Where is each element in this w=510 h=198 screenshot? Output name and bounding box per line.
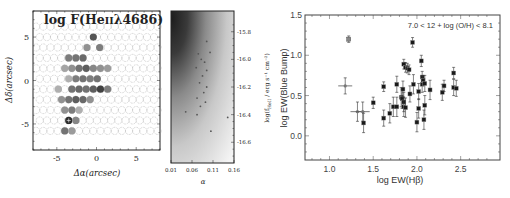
detected-fiber bbox=[65, 75, 72, 82]
x-tick-label: 2.0 bbox=[411, 164, 423, 174]
detected-fiber bbox=[65, 96, 72, 103]
density-x-label: α bbox=[201, 178, 206, 186]
data-point bbox=[411, 75, 415, 94]
detected-fiber bbox=[97, 65, 104, 72]
empty-fiber bbox=[58, 117, 65, 124]
sample-point bbox=[202, 75, 204, 77]
empty-fiber bbox=[72, 33, 79, 40]
x-tick-label: 0.11 bbox=[207, 167, 219, 173]
empty-fiber bbox=[83, 127, 90, 134]
empty-fiber bbox=[118, 127, 125, 134]
empty-fiber bbox=[50, 96, 57, 103]
empty-fiber bbox=[40, 44, 47, 51]
detected-fiber bbox=[90, 65, 97, 72]
empty-fiber bbox=[93, 96, 100, 103]
y-tick-label: -16.6 bbox=[237, 139, 252, 145]
detected-fiber bbox=[87, 96, 94, 103]
detected-fiber bbox=[87, 75, 94, 82]
empty-fiber bbox=[33, 127, 40, 134]
detected-fiber bbox=[75, 106, 82, 113]
empty-fiber bbox=[143, 117, 150, 124]
detected-fiber bbox=[68, 127, 75, 134]
sample-point bbox=[185, 111, 187, 113]
detected-fiber bbox=[94, 75, 101, 82]
sample-point bbox=[206, 86, 208, 88]
empty-fiber bbox=[40, 106, 47, 113]
sample-point bbox=[206, 41, 208, 43]
empty-fiber bbox=[129, 117, 136, 124]
data-point bbox=[371, 97, 375, 108]
empty-fiber bbox=[147, 44, 154, 51]
data-point bbox=[347, 36, 351, 42]
detected-fiber bbox=[61, 127, 68, 134]
detected-fiber bbox=[72, 117, 79, 124]
empty-fiber bbox=[90, 106, 97, 113]
empty-fiber bbox=[33, 44, 40, 51]
sample-point bbox=[200, 105, 202, 107]
empty-fiber bbox=[93, 117, 100, 124]
empty-fiber bbox=[108, 117, 115, 124]
sample-point bbox=[199, 82, 201, 84]
sample-point bbox=[205, 101, 207, 103]
detected-fiber bbox=[90, 33, 97, 40]
data-point bbox=[423, 96, 427, 115]
empty-fiber bbox=[100, 117, 107, 124]
detected-fiber bbox=[79, 54, 86, 61]
empty-fiber bbox=[58, 54, 65, 61]
map-y-tick-labels: 50-5 bbox=[21, 33, 29, 129]
heii-flux-map-panel: log F(HeIIλ4686) -505 50-5 Δα(arcsec) Δδ… bbox=[0, 0, 170, 198]
density-y-label: log(fHeII / erg s⁻¹ cm⁻²) bbox=[263, 53, 272, 123]
detected-fiber bbox=[68, 65, 75, 72]
fiber-grid bbox=[33, 23, 162, 134]
empty-fiber bbox=[143, 96, 150, 103]
empty-fiber bbox=[36, 117, 43, 124]
empty-fiber bbox=[100, 75, 107, 82]
empty-fiber bbox=[118, 106, 125, 113]
empty-fiber bbox=[54, 44, 61, 51]
data-point bbox=[382, 82, 386, 92]
empty-fiber bbox=[129, 75, 136, 82]
sample-point bbox=[227, 117, 229, 119]
sample-point bbox=[200, 58, 202, 60]
detected-fiber bbox=[72, 96, 79, 103]
empty-fiber bbox=[122, 96, 129, 103]
sample-point bbox=[206, 70, 208, 72]
detected-fiber bbox=[83, 86, 90, 93]
y-tick-label: 1.0 bbox=[290, 50, 302, 60]
data-point bbox=[415, 112, 419, 131]
sample-point bbox=[203, 92, 205, 94]
y-tick-label: 0.0 bbox=[290, 131, 302, 141]
empty-fiber bbox=[111, 44, 118, 51]
empty-fiber bbox=[90, 127, 97, 134]
empty-fiber bbox=[108, 54, 115, 61]
empty-fiber bbox=[43, 117, 50, 124]
y-tick-label: -15.8 bbox=[237, 29, 252, 35]
data-point bbox=[395, 76, 399, 92]
scatter-points bbox=[338, 36, 458, 133]
x-tick-label: 1.5 bbox=[367, 164, 379, 174]
empty-fiber bbox=[54, 106, 61, 113]
detected-fiber bbox=[65, 54, 72, 61]
empty-fiber bbox=[150, 117, 157, 124]
empty-fiber bbox=[83, 106, 90, 113]
y-tick-label: -16.0 bbox=[237, 56, 252, 62]
x-tick-label: 0.16 bbox=[228, 167, 241, 173]
empty-fiber bbox=[136, 54, 143, 61]
y-tick-label: -16.2 bbox=[237, 84, 251, 90]
empty-fiber bbox=[33, 106, 40, 113]
empty-fiber bbox=[36, 96, 43, 103]
empty-fiber bbox=[104, 106, 111, 113]
detected-fiber bbox=[83, 44, 90, 51]
data-point bbox=[408, 86, 412, 102]
empty-fiber bbox=[129, 96, 136, 103]
x-tick-label: 0.01 bbox=[165, 167, 177, 173]
detected-fiber bbox=[90, 86, 97, 93]
empty-fiber bbox=[115, 54, 122, 61]
empty-fiber bbox=[50, 75, 57, 82]
empty-fiber bbox=[143, 33, 150, 40]
data-point bbox=[454, 80, 458, 96]
detected-fiber bbox=[75, 65, 82, 72]
x-tick-label: 1.0 bbox=[324, 164, 336, 174]
empty-fiber bbox=[47, 44, 54, 51]
empty-fiber bbox=[100, 96, 107, 103]
